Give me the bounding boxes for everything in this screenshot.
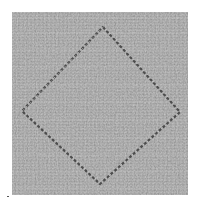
photo-canvas: Grayscale photograph of woven fabric wit… <box>0 0 197 207</box>
woven-fabric-texture <box>12 12 188 195</box>
image-description: Grayscale photograph of woven fabric wit… <box>0 0 1 1</box>
dust-speck <box>7 196 9 197</box>
